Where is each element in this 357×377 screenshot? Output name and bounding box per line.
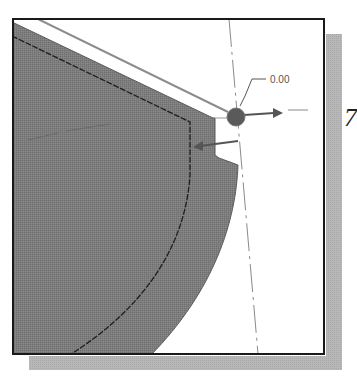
- drag-handle-icon[interactable]: [227, 108, 245, 126]
- step-number: 7: [344, 104, 357, 132]
- dimension-value-label[interactable]: 0.00: [270, 74, 289, 86]
